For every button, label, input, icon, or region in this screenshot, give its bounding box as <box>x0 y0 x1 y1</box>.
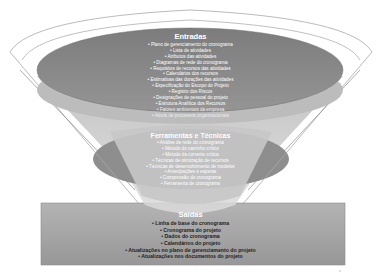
list-item: • Atualizações nos documentos do projeto <box>0 254 381 261</box>
tools-title: Ferramentas e Técnicas <box>0 132 381 139</box>
list-item: • Ferramenta de cronograma <box>0 182 381 188</box>
inputs-list: • Plano de gerenciamento do cronograma •… <box>0 43 381 120</box>
outputs-list: • Linha de base do cronograma • Cronogra… <box>0 221 381 261</box>
tools-list: • Análise de rede do cronograma • Método… <box>0 141 381 188</box>
outputs-title: Saídas <box>0 211 381 219</box>
inputs-title: Entradas <box>0 33 381 41</box>
list-item: • Ativos de processos organizacionais <box>0 114 381 120</box>
